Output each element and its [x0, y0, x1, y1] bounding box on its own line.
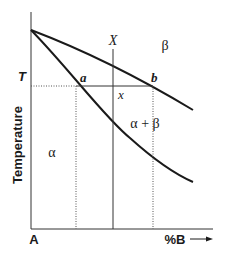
composition-label-x: X [108, 33, 118, 48]
temperature-tick-label: T [18, 69, 27, 84]
beta-region-label: β [161, 38, 168, 53]
point-x-label: x [117, 87, 124, 102]
two-phase-region-label: α + β [130, 116, 159, 131]
point-a-label: a [80, 70, 87, 85]
alpha-region-label: α [48, 145, 56, 160]
y-axis-label: Temperature [10, 106, 25, 184]
arrow-right-icon [190, 237, 213, 242]
point-b-label: b [151, 70, 158, 85]
x-origin-label: A [29, 232, 39, 247]
x-axis-label: %B [165, 232, 186, 247]
phase-diagram: X β T a b x α + β α Temperature A %B [0, 0, 227, 257]
